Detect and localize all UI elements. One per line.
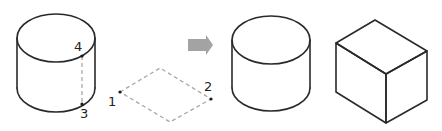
cube-left-face <box>336 43 386 123</box>
point-2-label: 2 <box>204 79 212 94</box>
cylinder-with-points: 4 3 <box>17 14 95 121</box>
point-4-marker <box>80 54 83 57</box>
rhombus-outline <box>120 68 211 122</box>
point-4-label: 4 <box>74 39 82 54</box>
cylinder-result <box>232 16 310 111</box>
diagram-canvas: 4 3 1 2 <box>0 0 442 131</box>
point-1-label: 1 <box>108 94 116 109</box>
arrow-right-icon <box>188 35 213 55</box>
cube-right-face <box>386 51 427 123</box>
cube-top-face <box>336 20 427 74</box>
cylinder-result-top-ellipse <box>232 16 310 64</box>
cylinder-result-bottom-arc <box>232 88 310 111</box>
point-1-marker <box>118 90 121 93</box>
cylinder-top-ellipse <box>17 14 95 62</box>
dashed-rhombus: 1 2 <box>108 68 213 122</box>
point-2-marker <box>209 97 212 100</box>
point-3-label: 3 <box>80 106 88 121</box>
cube-result <box>336 20 427 123</box>
